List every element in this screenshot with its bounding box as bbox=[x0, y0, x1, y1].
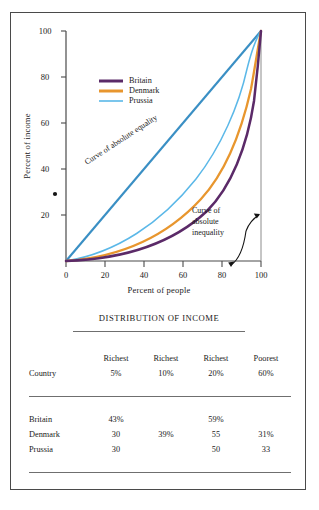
denmark-richest5: 30 bbox=[91, 427, 141, 442]
header-country: Country bbox=[29, 366, 91, 381]
prussia-poorest60: 33 bbox=[241, 442, 291, 457]
header-rule-cell bbox=[29, 381, 291, 397]
inequality-label-line1: Curve of bbox=[192, 206, 258, 217]
spacer-cell bbox=[29, 397, 291, 413]
y-axis-title: Percent of income bbox=[22, 108, 32, 184]
denmark-richest10: 39% bbox=[141, 427, 191, 442]
table-header-rule bbox=[29, 381, 291, 397]
legend-label-prussia: Prussia bbox=[129, 96, 153, 105]
britain-richest10 bbox=[141, 412, 191, 427]
stray-dot-marker bbox=[53, 192, 57, 196]
header-top-richest5: Richest bbox=[91, 351, 141, 366]
income-distribution-table: Richest Richest Richest Poorest Country … bbox=[29, 351, 291, 473]
header-top-blank bbox=[29, 351, 91, 366]
table-row: Denmark 30 39% 55 31% bbox=[29, 427, 291, 442]
x-tick-label-60: 60 bbox=[171, 270, 195, 280]
table-header-top-row: Richest Richest Richest Poorest bbox=[29, 351, 291, 366]
prussia-richest20: 50 bbox=[191, 442, 241, 457]
header-pct-20: 20% bbox=[191, 366, 241, 381]
britain-richest5: 43% bbox=[91, 412, 141, 427]
table-spacer-row bbox=[29, 397, 291, 413]
bottom-rule-cell bbox=[29, 457, 291, 473]
header-pct-5: 5% bbox=[91, 366, 141, 381]
y-tick-label-40: 40 bbox=[33, 164, 57, 174]
y-tick-label-60: 60 bbox=[33, 118, 57, 128]
header-pct-10: 10% bbox=[141, 366, 191, 381]
prussia-richest5: 30 bbox=[91, 442, 141, 457]
y-tick-label-80: 80 bbox=[33, 72, 57, 82]
table-header-bottom-row: Country 5% 10% 20% 60% bbox=[29, 366, 291, 381]
prussia-richest10 bbox=[141, 442, 191, 457]
table-title-rule bbox=[73, 331, 245, 332]
table-bottom-rule bbox=[29, 457, 291, 473]
table-row: Britain 43% 59% bbox=[29, 412, 291, 427]
legend-label-britain: Britain bbox=[129, 76, 152, 85]
income-distribution-table-region: DISTRIBUTION OF INCOME Richest Richest R… bbox=[11, 305, 307, 491]
table-title: DISTRIBUTION OF INCOME bbox=[11, 313, 307, 323]
header-top-richest20: Richest bbox=[191, 351, 241, 366]
x-tick-label-80: 80 bbox=[210, 270, 234, 280]
plot-svg bbox=[11, 13, 307, 303]
inequality-curve-label: Curve of absolute inequality bbox=[192, 206, 258, 238]
row-country-prussia: Prussia bbox=[29, 442, 91, 457]
lorenz-curve-chart: Curve of absolute equality Curve of abso… bbox=[11, 13, 307, 303]
row-country-britain: Britain bbox=[29, 412, 91, 427]
inequality-label-line2: absolute bbox=[192, 217, 258, 228]
table-row: Prussia 30 50 33 bbox=[29, 442, 291, 457]
header-pct-60: 60% bbox=[241, 366, 291, 381]
row-country-denmark: Denmark bbox=[29, 427, 91, 442]
legend-label-denmark: Denmark bbox=[129, 86, 159, 95]
denmark-richest20: 55 bbox=[191, 427, 241, 442]
x-tick-label-0: 0 bbox=[54, 270, 78, 280]
header-top-richest10: Richest bbox=[141, 351, 191, 366]
y-tick-marks bbox=[61, 31, 66, 215]
y-tick-label-20: 20 bbox=[33, 210, 57, 220]
x-tick-label-100: 100 bbox=[249, 270, 273, 280]
y-tick-label-100: 100 bbox=[33, 26, 57, 36]
figure-frame: Curve of absolute equality Curve of abso… bbox=[10, 12, 306, 490]
x-tick-label-20: 20 bbox=[93, 270, 117, 280]
inequality-label-line3: inequality bbox=[192, 228, 258, 239]
header-top-poorest60: Poorest bbox=[241, 351, 291, 366]
britain-richest20: 59% bbox=[191, 412, 241, 427]
britain-poorest60 bbox=[241, 412, 291, 427]
x-tick-label-40: 40 bbox=[132, 270, 156, 280]
denmark-poorest60: 31% bbox=[241, 427, 291, 442]
x-axis-title: Percent of people bbox=[11, 285, 307, 295]
